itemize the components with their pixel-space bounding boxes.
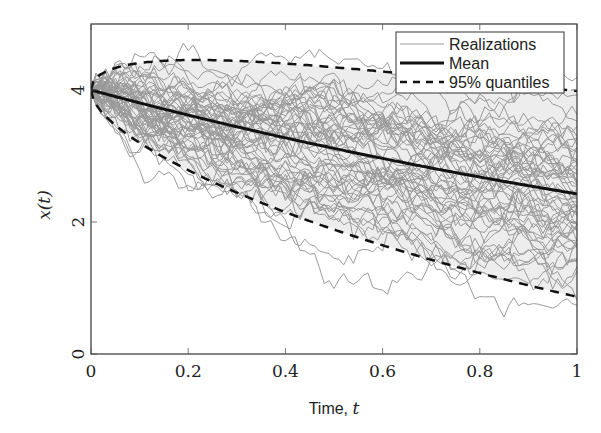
x-tick-label: 0: [86, 361, 97, 381]
y-axis-label: x(t): [34, 190, 54, 220]
x-tick-label: 0.4: [272, 361, 299, 381]
x-tick-label: 0.6: [369, 361, 396, 381]
y-tick-label: 4: [68, 85, 88, 96]
legend-realizations-label: Realizations: [449, 36, 536, 53]
legend-mean-label: Mean: [449, 55, 489, 72]
x-tick-label: 1: [572, 361, 583, 381]
y-tick-label: 2: [68, 217, 88, 228]
x-axis-label: Time, t: [309, 398, 360, 418]
chart: 00.20.40.60.81 024 Time, t x(t) Realizat…: [0, 0, 601, 433]
x-tick-label: 0.2: [175, 361, 202, 381]
legend: Realizations Mean 95% quantiles: [396, 32, 564, 93]
legend-quantiles-label: 95% quantiles: [449, 74, 550, 91]
x-tick-label: 0.8: [466, 361, 493, 381]
y-tick-label: 0: [68, 349, 88, 360]
